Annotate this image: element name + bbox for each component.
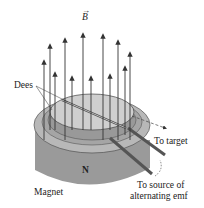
source-label-1: To source of <box>137 180 184 190</box>
pole-label: N <box>82 165 89 175</box>
cyclotron-diagram: B → Dees To target N Magnet To source of… <box>0 0 204 208</box>
source-label-2: alternating emf <box>130 191 188 201</box>
dees-pointer <box>36 86 68 102</box>
target-label: To target <box>154 136 188 146</box>
dees-label: Dees <box>14 80 33 90</box>
diagram-graphic <box>0 0 204 208</box>
magnet-label: Magnet <box>34 187 63 197</box>
vector-arrow-icon: → <box>82 6 90 16</box>
